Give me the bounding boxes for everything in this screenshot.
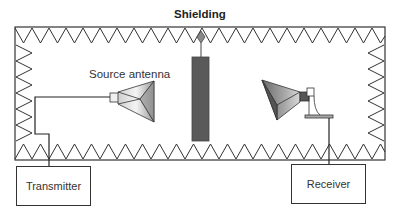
receiver-label: Receiver: [307, 178, 350, 190]
absorber-right: [368, 45, 384, 141]
absorber-left: [16, 45, 32, 141]
source-antenna-label: Source antenna: [89, 68, 170, 80]
shielding-plate: [192, 31, 209, 141]
shielding-title: Shielding: [174, 8, 226, 20]
receive-antenna-icon: [262, 80, 333, 120]
transmitter-label: Transmitter: [26, 180, 81, 192]
receiver-box: Receiver: [291, 164, 366, 204]
source-antenna-icon: [110, 81, 154, 122]
transmitter-box: Transmitter: [16, 166, 91, 206]
